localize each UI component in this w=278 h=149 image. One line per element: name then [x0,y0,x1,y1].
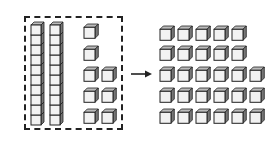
left-one-cube [84,24,98,38]
right-one-cube [232,67,246,81]
right-one-cube [196,88,210,102]
right-one-cube [196,46,210,60]
right-one-cube [196,109,210,123]
right-one-cube [178,88,192,102]
left-one-cube [84,46,98,60]
right-one-cube [196,26,210,40]
right-one-cube [250,109,264,123]
right-one-cube [250,88,264,102]
right-one-cube [214,46,228,60]
right-one-cube [160,26,174,40]
left-one-cube [84,88,98,102]
right-arrow-icon [131,71,152,78]
right-one-cube [160,88,174,102]
tens-rod-1-cube [31,22,44,35]
right-one-cube [178,109,192,123]
right-one-cube [160,67,174,81]
right-one-cube [160,46,174,60]
right-one-cube [214,109,228,123]
right-one-cube [178,26,192,40]
right-one-cube [214,67,228,81]
left-one-cube [102,88,116,102]
right-one-cube [160,109,174,123]
left-one-cube [84,67,98,81]
left-one-cube [102,109,116,123]
right-one-cube [250,67,264,81]
right-one-cube [178,67,192,81]
right-one-cube [232,26,246,40]
right-one-cube [232,109,246,123]
base-ten-blocks-diagram [0,0,278,149]
left-one-cube [84,109,98,123]
right-one-cube [196,67,210,81]
right-one-cube [232,46,246,60]
right-one-cube [214,26,228,40]
tens-rod-2-cube [50,22,63,35]
right-one-cube [178,46,192,60]
right-one-cube [214,88,228,102]
right-one-cube [232,88,246,102]
left-one-cube [102,67,116,81]
